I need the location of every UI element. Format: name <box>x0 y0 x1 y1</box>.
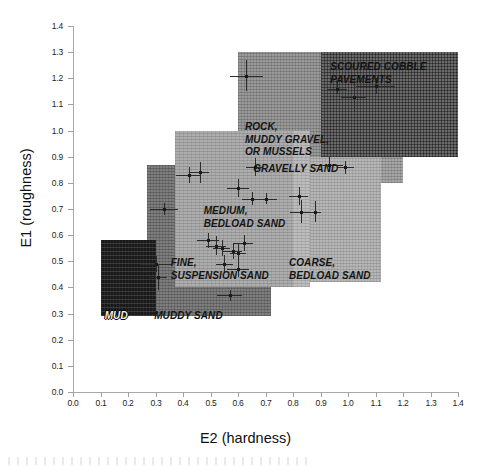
y-tick-label: 1.1 <box>33 99 63 109</box>
x-tick-label: 0.4 <box>168 398 198 408</box>
x-tick <box>376 392 377 397</box>
x-tick <box>211 392 212 397</box>
x-tick <box>101 392 102 397</box>
facies-label-muddy-sand: MUDDY SAND <box>154 310 223 323</box>
x-tick-label: 1.3 <box>416 398 446 408</box>
x-tick-label: 0.2 <box>113 398 143 408</box>
x-tick <box>293 392 294 397</box>
y-tick-label: 0.5 <box>33 256 63 266</box>
scan-artifact <box>8 457 308 465</box>
x-tick-label: 0.9 <box>306 398 336 408</box>
facies-region-mud <box>101 240 156 316</box>
facies-label-scoured-cobble-pavements: SCOURED COBBLE PAVEMENTS <box>330 61 426 86</box>
x-tick-label: 1.1 <box>361 398 391 408</box>
y-tick-label: 0.9 <box>33 152 63 162</box>
facies-label-gravelly-sand: GRAVELLY SAND <box>253 163 338 176</box>
x-tick-label: 0.5 <box>196 398 226 408</box>
y-tick-label: 0.6 <box>33 230 63 240</box>
y-axis-title: E1 (roughness) <box>18 98 34 298</box>
x-tick <box>238 392 239 397</box>
y-tick-label: 1.3 <box>33 47 63 57</box>
y-tick-label: 1.0 <box>33 126 63 136</box>
x-tick <box>458 392 459 397</box>
y-tick-label: 0.4 <box>33 282 63 292</box>
y-tick-label: 1.2 <box>33 73 63 83</box>
y-tick-label: 0.0 <box>33 387 63 397</box>
facies-label-mud: MUD <box>105 310 128 323</box>
y-tick-label: 0.8 <box>33 178 63 188</box>
facies-label-coarse-bedload-sand: COARSE, BEDLOAD SAND <box>289 257 371 282</box>
x-tick-label: 0.8 <box>278 398 308 408</box>
x-tick <box>403 392 404 397</box>
facies-label-rock-muddy-gravel-or-mussels: ROCK, MUDDY GRAVEL, OR MUSSELS <box>245 121 329 159</box>
x-tick <box>73 392 74 397</box>
y-tick-label: 0.2 <box>33 335 63 345</box>
x-tick <box>431 392 432 397</box>
facies-label-fine-suspension-sand: FINE, SUSPENSION SAND <box>171 257 269 282</box>
facies-classification-chart: 0.00.10.20.30.40.50.60.70.80.91.01.11.21… <box>0 0 491 466</box>
x-tick <box>156 392 157 397</box>
x-tick-label: 1.4 <box>443 398 473 408</box>
x-tick <box>183 392 184 397</box>
x-tick-label: 1.2 <box>388 398 418 408</box>
y-tick-label: 0.7 <box>33 204 63 214</box>
y-tick-label: 0.3 <box>33 309 63 319</box>
x-tick-label: 0.3 <box>141 398 171 408</box>
x-axis-title: E2 (hardness) <box>0 430 491 446</box>
x-tick-label: 0.7 <box>251 398 281 408</box>
facies-label-medium-bedload-sand: MEDIUM, BEDLOAD SAND <box>204 205 286 230</box>
x-tick <box>321 392 322 397</box>
x-tick <box>128 392 129 397</box>
y-tick-label: 1.4 <box>33 21 63 31</box>
x-tick <box>348 392 349 397</box>
y-tick-label: 0.1 <box>33 361 63 371</box>
x-tick-label: 0.6 <box>223 398 253 408</box>
x-tick <box>266 392 267 397</box>
x-tick-label: 1.0 <box>333 398 363 408</box>
x-tick-label: 0.0 <box>58 398 88 408</box>
x-tick-label: 0.1 <box>86 398 116 408</box>
plot-area: MUDMUDDY SANDFINE, SUSPENSION SANDMEDIUM… <box>73 26 458 392</box>
